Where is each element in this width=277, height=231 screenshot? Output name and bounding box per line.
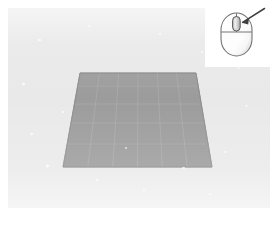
figure-root [0,0,277,231]
mouse-icon[interactable] [205,2,270,67]
figure-caption [0,210,277,231]
mouse-callout-panel[interactable] [205,2,270,67]
scroll-wheel[interactable] [233,17,241,32]
